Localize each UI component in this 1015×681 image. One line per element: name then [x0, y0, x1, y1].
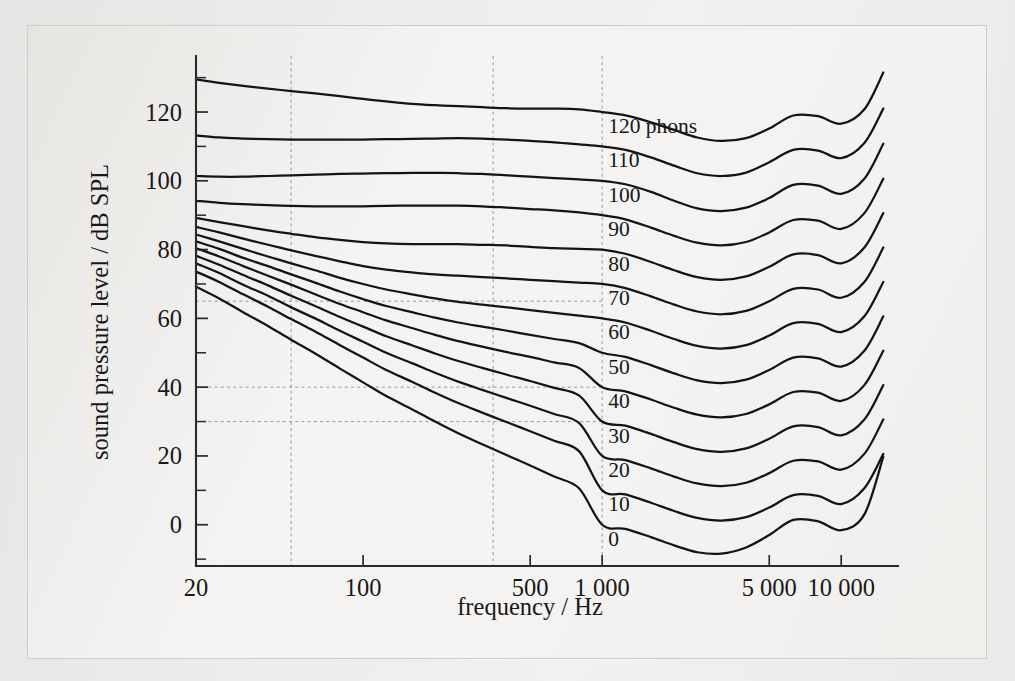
y-tick-label: 60	[158, 305, 183, 332]
page-background: 020406080100120 201005001 0005 00010 000…	[0, 0, 1015, 681]
phon-curve-label: 60	[608, 320, 630, 344]
y-tick-label: 80	[158, 236, 183, 263]
y-axis-title: sound pressure level / dB SPL	[86, 164, 113, 460]
x-tick-label: 10 000	[808, 574, 875, 601]
phon-curve-label: 30	[608, 424, 630, 448]
x-tick-label: 5 000	[742, 574, 797, 601]
x-tick-group	[363, 555, 841, 566]
phon-curve-label: 50	[608, 355, 630, 379]
x-tick-label: 20	[184, 574, 209, 601]
phon-curve-label: 10	[608, 492, 630, 516]
phon-curve-label: 0	[608, 527, 619, 551]
y-tick-label: 20	[158, 442, 183, 469]
phon-curve-label: 70	[608, 286, 630, 310]
y-tick-group	[196, 78, 208, 559]
y-tick-label: 40	[158, 374, 183, 401]
contour-curve	[196, 263, 883, 486]
y-tick-label: 120	[145, 99, 182, 126]
y-tick-label: 0	[170, 511, 182, 538]
contour-curve	[196, 248, 883, 417]
phon-curve-label: 110	[608, 148, 639, 172]
contour-curve	[196, 287, 883, 554]
contour-curve	[196, 272, 883, 521]
phon-curve-label: 120 phons	[608, 114, 697, 138]
phon-curve-label: 90	[608, 217, 630, 241]
curves-group	[196, 72, 883, 553]
phon-curve-label: 80	[608, 252, 630, 276]
y-tick-label: 100	[145, 167, 182, 194]
contour-curve	[196, 256, 883, 452]
contour-curve	[196, 72, 883, 140]
contour-curve	[196, 144, 883, 211]
phon-curve-label: 20	[608, 458, 630, 482]
x-tick-label: 100	[345, 574, 382, 601]
phon-curve-label: 100	[608, 183, 640, 207]
contour-curve	[196, 109, 883, 176]
phon-curve-label: 40	[608, 389, 630, 413]
equal-loudness-contour-chart: 020406080100120 201005001 0005 00010 000…	[0, 0, 1015, 681]
contour-curve	[196, 213, 883, 280]
y-tick-labels: 020406080100120	[145, 99, 182, 539]
x-axis-title: frequency / Hz	[457, 593, 603, 620]
